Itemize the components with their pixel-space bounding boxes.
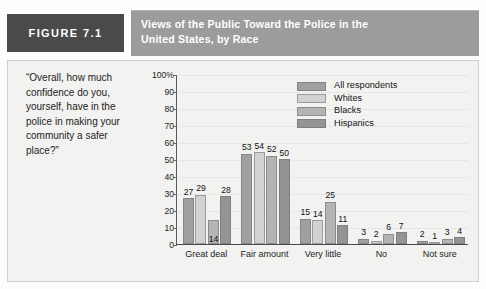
legend-swatch	[297, 82, 326, 91]
survey-question-quote: “Overall, how much confidence do you, yo…	[26, 71, 138, 159]
figure-title-line1: Views of the Public Toward the Police in…	[141, 18, 368, 30]
figure-header: FIGURE 7.1 Views of the Public Toward th…	[7, 10, 479, 54]
legend-label: All respondents	[334, 80, 397, 90]
y-tick-label: 90	[145, 87, 174, 97]
legend-item: Blacks	[297, 105, 437, 118]
legend-item: All respondents	[297, 80, 437, 93]
y-tick-label: 10	[145, 223, 174, 233]
figure-title-line2: United States, by Race	[141, 33, 259, 45]
bar	[337, 225, 348, 244]
bar	[220, 196, 231, 244]
legend-swatch	[297, 119, 326, 128]
x-category-label: Not sure	[411, 249, 469, 259]
figure-title-bar: Views of the Public Toward the Police in…	[131, 10, 479, 56]
chart-legend: All respondentsWhitesBlacksHispanics	[297, 80, 437, 130]
x-category-label: Very little	[294, 249, 352, 259]
y-tick-label: 0	[145, 240, 174, 250]
bar	[183, 198, 194, 244]
bar	[442, 239, 453, 244]
bar	[358, 239, 369, 244]
y-tick-label: 60	[145, 138, 174, 148]
bar	[417, 241, 428, 244]
bar	[300, 219, 311, 245]
bar-value-label: 28	[214, 185, 238, 195]
bar-value-label: 11	[331, 214, 355, 224]
figure-number-label: FIGURE 7.1	[29, 27, 103, 39]
y-tick-label: 30	[145, 189, 174, 199]
bar	[383, 234, 394, 244]
bar	[279, 159, 290, 244]
bar-group: 53545250	[241, 75, 290, 244]
legend-swatch	[297, 107, 326, 116]
bar	[429, 242, 440, 244]
bar	[312, 220, 323, 244]
figure-body-panel: “Overall, how much confidence do you, yo…	[7, 60, 479, 282]
y-tick-label: 80	[145, 104, 174, 114]
bar-chart: 0102030405060708090100% 27291428Great de…	[145, 75, 470, 271]
x-category-label: Great deal	[177, 249, 235, 259]
y-tick-label: 20	[145, 206, 174, 216]
bar-value-label: 4	[448, 226, 472, 236]
y-tick-label: 70	[145, 121, 174, 131]
y-tick-label: 50	[145, 155, 174, 165]
figure-container: FIGURE 7.1 Views of the Public Toward th…	[0, 0, 486, 289]
bar	[454, 237, 465, 244]
y-tick-label: 100%	[145, 70, 174, 80]
bar-value-label: 25	[318, 190, 342, 200]
x-category-label: No	[352, 249, 410, 259]
legend-swatch	[297, 94, 326, 103]
bar	[371, 241, 382, 244]
bar	[266, 156, 277, 244]
y-axis-tick	[173, 245, 177, 246]
bar-group: 27291428	[183, 75, 232, 244]
legend-item: Whites	[297, 93, 437, 106]
legend-label: Blacks	[334, 105, 361, 115]
bar-value-label: 50	[272, 148, 296, 158]
figure-number-badge: FIGURE 7.1	[7, 14, 124, 52]
bar	[254, 152, 265, 244]
legend-item: Hispanics	[297, 118, 437, 131]
y-tick-label: 40	[145, 172, 174, 182]
bar-value-label: 29	[189, 183, 213, 193]
y-axis-tick-labels: 0102030405060708090100%	[145, 75, 174, 245]
legend-label: Whites	[334, 93, 362, 103]
legend-label: Hispanics	[334, 118, 374, 128]
figure-title: Views of the Public Toward the Police in…	[141, 17, 471, 46]
bar	[241, 154, 252, 244]
x-category-label: Fair amount	[235, 249, 293, 259]
bar	[396, 232, 407, 244]
